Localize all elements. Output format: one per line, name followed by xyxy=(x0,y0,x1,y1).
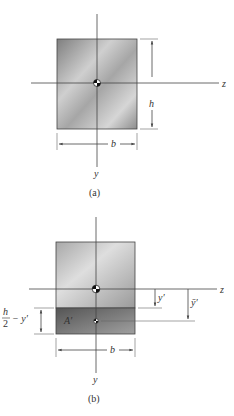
centroid-icon xyxy=(92,285,100,293)
figure-a-caption: (a) xyxy=(89,187,100,199)
y-bar-prime-label: ȳ′ xyxy=(190,297,198,308)
centroid-icon xyxy=(94,80,101,87)
y-axis-label: y xyxy=(93,168,99,179)
figure-b: z y A′ y′ ȳ′ h 2 − y′ xyxy=(2,217,224,405)
svg-text:2: 2 xyxy=(3,318,8,329)
area-label: A′ xyxy=(63,315,73,326)
area-centroid-icon xyxy=(94,319,99,324)
figure-b-caption: (b) xyxy=(88,393,100,405)
h-half-minus-y-prime-label: h 2 − y′ xyxy=(2,306,29,329)
cross-section-rectangle-upper xyxy=(56,242,135,308)
height-label: h xyxy=(149,98,154,109)
y-prime-label: y′ xyxy=(157,292,165,303)
y-axis-label: y xyxy=(92,374,98,385)
svg-text:− y′: − y′ xyxy=(12,313,29,324)
z-axis-label: z xyxy=(221,78,226,89)
width-label: b xyxy=(111,138,116,149)
figure-a: z y h b (a) xyxy=(31,14,226,199)
beam-cross-section-diagram: z y h b (a) z y xyxy=(0,0,234,416)
width-label: b xyxy=(110,344,115,355)
svg-text:h: h xyxy=(3,306,8,317)
z-axis-label: z xyxy=(219,284,224,295)
